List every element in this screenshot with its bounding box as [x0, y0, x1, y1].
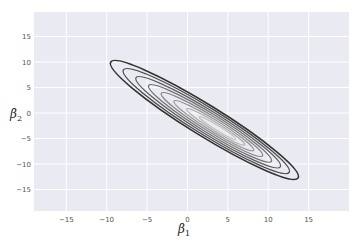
y-tick-label: 0 — [27, 110, 31, 118]
y-tick-label: −5 — [21, 135, 31, 143]
y-tick-label: 5 — [27, 84, 31, 92]
x-tick-label: −15 — [59, 216, 74, 224]
plot-background — [34, 12, 349, 211]
x-axis-label: β1 — [177, 222, 190, 238]
x-tick-label: −5 — [142, 216, 152, 224]
y-tick-label: −15 — [16, 186, 31, 194]
contour-chart: −15−10−5051015 151050−5−10−15 β1 β2 — [0, 0, 361, 245]
x-tick-label: 5 — [226, 216, 230, 224]
y-tick-label: −10 — [16, 161, 31, 169]
x-tick-label: −10 — [99, 216, 114, 224]
y-axis-label: β2 — [9, 107, 22, 123]
x-tick-label: 15 — [304, 216, 313, 224]
y-tick-label: 15 — [22, 33, 31, 41]
x-tick-label: 0 — [185, 216, 189, 224]
x-tick-labels: −15−10−5051015 — [59, 216, 313, 224]
x-tick-label: 10 — [264, 216, 273, 224]
y-tick-label: 10 — [22, 59, 31, 67]
